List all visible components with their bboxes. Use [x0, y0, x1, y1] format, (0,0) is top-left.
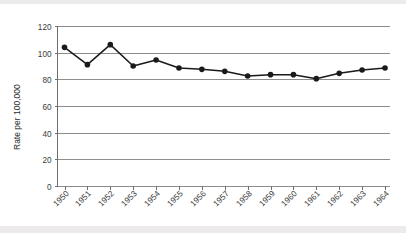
data-point [291, 72, 297, 78]
data-point [336, 71, 342, 77]
y-tick-labels: 020406080100120 [38, 23, 52, 192]
chart-figure: Rate per 100,000 020406080100120 1950195… [0, 0, 406, 233]
data-point [359, 67, 365, 73]
data-point [222, 69, 228, 75]
x-tick-label: 1957 [212, 189, 232, 209]
data-point [268, 72, 274, 78]
data-point [199, 67, 205, 73]
x-tick-label: 1950 [52, 189, 72, 209]
data-point [176, 65, 182, 71]
x-tick-label: 1959 [258, 189, 278, 209]
y-tick-label: 60 [42, 103, 52, 112]
x-tick-label: 1954 [143, 189, 163, 209]
series-markers [62, 42, 388, 82]
x-tick-label: 1961 [303, 189, 323, 209]
x-tick-label: 1956 [189, 189, 209, 209]
data-point [245, 73, 251, 79]
x-tick-label: 1962 [326, 189, 346, 209]
y-tick-label: 100 [38, 50, 52, 59]
x-tick-label: 1964 [372, 189, 392, 209]
data-point [62, 45, 68, 51]
data-point [130, 63, 136, 69]
y-tick-label: 20 [42, 156, 52, 165]
y-axis-title: Rate per 100,000 [12, 84, 22, 150]
x-tick-label: 1953 [120, 189, 140, 209]
data-point [85, 62, 91, 68]
y-tick-label: 80 [42, 76, 52, 85]
y-tick-label: 40 [42, 130, 52, 139]
x-tick-label: 1960 [280, 189, 300, 209]
data-point [153, 57, 159, 63]
y-tick-label: 120 [38, 23, 52, 32]
gridlines [58, 27, 391, 187]
line-chart: Rate per 100,000 020406080100120 1950195… [0, 0, 406, 233]
x-tick-label: 1955 [166, 189, 186, 209]
x-tick-label: 1952 [97, 189, 117, 209]
x-tick-labels: 1950195119521953195419551956195719581959… [52, 189, 392, 209]
data-point [314, 76, 320, 82]
y-tick-label: 0 [47, 183, 52, 192]
data-point [382, 65, 388, 71]
x-tick-label: 1958 [235, 189, 255, 209]
data-point [107, 42, 113, 48]
x-tick-label: 1963 [349, 189, 369, 209]
x-tick-label: 1951 [74, 189, 94, 209]
